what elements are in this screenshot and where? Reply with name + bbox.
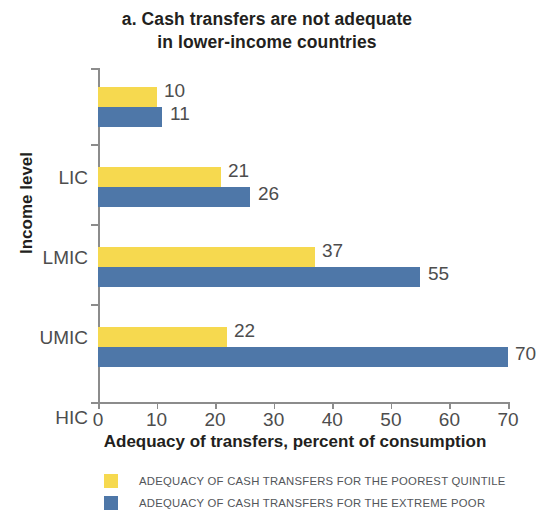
legend-label-extreme-poor: ADEQUACY OF CASH TRANSFERS FOR THE EXTRE…: [139, 497, 485, 509]
bar-value-lic-extreme-poor: 11: [170, 103, 190, 125]
bar-umic-poorest-quintile: [98, 247, 315, 267]
y-category-label-lmic: LMIC: [43, 247, 88, 269]
y-category-label-umic: UMIC: [39, 327, 88, 349]
x-tick-label-20: 20: [205, 409, 226, 431]
bar-lmic-poorest-quintile: [98, 167, 221, 187]
bar-value-hic-poorest-quintile: 22: [234, 320, 255, 342]
bar-value-lmic-extreme-poor: 26: [258, 183, 279, 205]
x-axis-title: Adequacy of transfers, percent of consum…: [60, 432, 530, 452]
x-tick-0: [98, 402, 100, 409]
y-tick-1: [91, 144, 98, 146]
bar-value-lic-poorest-quintile: 10: [164, 80, 185, 102]
x-tick-50: [391, 402, 393, 409]
y-axis-category-labels: LIC LMIC UMIC HIC: [0, 68, 88, 403]
legend-swatch-extreme-poor: [104, 496, 118, 510]
y-tick-0: [91, 68, 98, 70]
x-tick-label-30: 30: [263, 409, 284, 431]
chart-title-line-1: a. Cash transfers are not adequate: [0, 8, 534, 31]
bar-lic-extreme-poor: [98, 107, 162, 127]
chart-title-line-2: in lower-income countries: [0, 31, 534, 54]
bar-lic-poorest-quintile: [98, 87, 157, 107]
y-tick-2: [91, 224, 98, 226]
bar-value-lmic-poorest-quintile: 21: [228, 160, 249, 182]
bar-value-umic-extreme-poor: 55: [428, 263, 449, 285]
x-tick-30: [274, 402, 276, 409]
bar-value-hic-extreme-poor: 70: [515, 343, 536, 365]
chart-title: a. Cash transfers are not adequate in lo…: [0, 8, 534, 54]
y-tick-3: [91, 304, 98, 306]
legend-item-poorest-quintile: ADEQUACY OF CASH TRANSFERS FOR THE POORE…: [104, 470, 534, 492]
x-tick-label-50: 50: [380, 409, 401, 431]
y-category-label-lic: LIC: [58, 167, 88, 189]
chart-legend: ADEQUACY OF CASH TRANSFERS FOR THE POORE…: [104, 470, 534, 514]
x-tick-label-70: 70: [497, 409, 518, 431]
x-tick-label-0: 0: [93, 409, 104, 431]
bar-lmic-extreme-poor: [98, 187, 250, 207]
x-tick-label-40: 40: [322, 409, 343, 431]
bar-hic-extreme-poor: [98, 347, 508, 367]
plot-area: 10 11 21 26 37 55 22 70: [98, 68, 508, 403]
x-tick-20: [215, 402, 217, 409]
x-tick-10: [157, 402, 159, 409]
y-tick-4: [91, 402, 98, 404]
legend-swatch-poorest-quintile: [104, 474, 118, 488]
legend-item-extreme-poor: ADEQUACY OF CASH TRANSFERS FOR THE EXTRE…: [104, 492, 534, 514]
x-tick-label-60: 60: [439, 409, 460, 431]
x-tick-70: [508, 402, 510, 409]
x-tick-60: [449, 402, 451, 409]
bar-umic-extreme-poor: [98, 267, 420, 287]
legend-label-poorest-quintile: ADEQUACY OF CASH TRANSFERS FOR THE POORE…: [139, 475, 506, 487]
bar-value-umic-poorest-quintile: 37: [322, 240, 343, 262]
x-tick-40: [332, 402, 334, 409]
bar-hic-poorest-quintile: [98, 327, 227, 347]
x-tick-label-10: 10: [146, 409, 167, 431]
y-category-label-hic: HIC: [55, 407, 88, 429]
